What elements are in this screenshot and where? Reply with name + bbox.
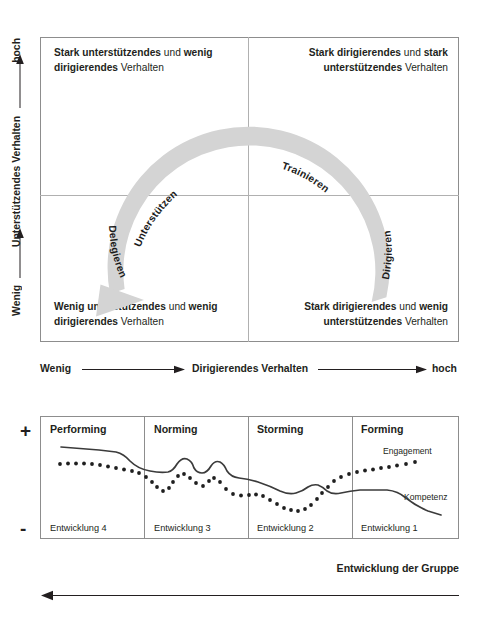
bottom-chart-graphics — [0, 0, 485, 629]
series-kompetenz-line — [61, 447, 441, 515]
bottom-chart-caption: Entwicklung der Gruppe — [337, 562, 459, 574]
group-direction-arrowhead — [41, 591, 53, 600]
series-engagement-dots — [58, 460, 417, 513]
figure-root: hoch Unterstützendes Verhalten Wenig Sta… — [0, 0, 485, 629]
